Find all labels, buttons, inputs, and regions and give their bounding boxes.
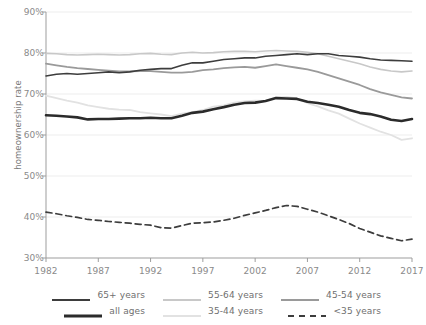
legend-label-3544: 35-44 years bbox=[208, 306, 263, 316]
legend-item-under35[interactable]: <35 years bbox=[287, 306, 381, 316]
legend-swatch-3544 bbox=[162, 306, 202, 316]
legend-item-allages[interactable]: all ages bbox=[63, 306, 145, 316]
legend-swatch-4554 bbox=[280, 290, 320, 300]
series-line-45-54-years bbox=[46, 64, 412, 99]
legend-item-5564[interactable]: 55-64 years bbox=[162, 290, 263, 300]
plot-area bbox=[0, 0, 426, 325]
legend-label-4554: 45-54 years bbox=[326, 290, 381, 300]
legend-label-allages: all ages bbox=[109, 306, 145, 316]
legend-row-2: all ages 35-44 years <35 years bbox=[0, 303, 426, 319]
legend-swatch-5564 bbox=[162, 290, 202, 300]
series-line-65-years bbox=[46, 54, 412, 76]
legend-swatch-allages bbox=[63, 306, 103, 316]
series-line-all-ages bbox=[46, 98, 412, 121]
chart-legend: 65+ years 55-64 years 45-54 years bbox=[0, 287, 426, 319]
legend-row-1: 65+ years 55-64 years 45-54 years bbox=[0, 287, 426, 303]
legend-swatch-65plus bbox=[51, 290, 91, 300]
legend-item-3544[interactable]: 35-44 years bbox=[162, 306, 263, 316]
legend-label-5564: 55-64 years bbox=[208, 290, 263, 300]
legend-item-65plus[interactable]: 65+ years bbox=[51, 290, 145, 300]
legend-swatch-under35 bbox=[287, 306, 327, 316]
series-line--35-years bbox=[46, 206, 412, 241]
legend-label-65plus: 65+ years bbox=[97, 290, 145, 300]
chart-container: homeownership rate 30%40%50%60%70%80%90%… bbox=[0, 0, 426, 325]
legend-item-4554[interactable]: 45-54 years bbox=[280, 290, 381, 300]
legend-label-under35: <35 years bbox=[333, 306, 381, 316]
